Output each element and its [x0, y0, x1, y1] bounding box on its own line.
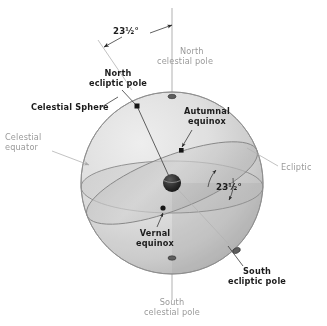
obliquity-inner-label: 23½°	[216, 182, 242, 192]
north-celestial-pole-label-line1: North	[180, 46, 204, 56]
south-ecliptic-pole-label-line2: ecliptic pole	[228, 276, 286, 286]
autumnal-equinox-label-line1: Autumnal	[184, 106, 230, 116]
vernal-equinox-label-line1: Vernal	[140, 228, 171, 238]
celestial-equator-label-line2: equator	[5, 142, 39, 152]
earth-sphere	[163, 174, 181, 192]
north-celestial-pole-label-group: North celestial pole	[157, 46, 213, 66]
celestial-sphere-diagram: 23½° 23½° North celestial pole North ecl…	[0, 0, 327, 326]
celestial-sphere-label: Celestial Sphere	[31, 102, 109, 112]
sphere-lower-right-shade	[172, 183, 263, 274]
south-celestial-pole-marker	[168, 256, 176, 260]
north-ecliptic-pole-marker	[135, 104, 140, 109]
south-celestial-pole-label-line2: celestial pole	[144, 307, 200, 317]
north-ecliptic-pole-label-line2: ecliptic pole	[89, 78, 147, 88]
vernal-equinox-marker	[160, 205, 165, 210]
north-ecliptic-pole-leader	[122, 90, 135, 104]
obliquity-arrow-right	[150, 25, 172, 33]
vernal-equinox-label-line2: equinox	[136, 238, 174, 248]
autumnal-equinox-label-line2: equinox	[188, 116, 226, 126]
celestial-sphere-label-group: Celestial Sphere	[31, 97, 118, 112]
obliquity-arrow-left	[104, 37, 122, 47]
south-celestial-pole-label-group: South celestial pole	[144, 297, 200, 317]
ecliptic-label: Ecliptic	[281, 162, 312, 172]
obliquity-top-label: 23½°	[113, 26, 139, 36]
celestial-equator-label-line1: Celestial	[5, 132, 41, 142]
autumnal-equinox-marker	[179, 148, 184, 153]
celestial-equator-leader	[52, 151, 89, 165]
north-celestial-pole-label-line2: celestial pole	[157, 56, 213, 66]
south-celestial-pole-label-line1: South	[160, 297, 185, 307]
south-ecliptic-pole-label-line1: South	[243, 266, 271, 276]
diagram-canvas: 23½° 23½° North celestial pole North ecl…	[0, 0, 327, 326]
north-ecliptic-pole-label-line1: North	[104, 68, 131, 78]
north-celestial-pole-marker	[168, 94, 176, 98]
celestial-equator-label-group: Celestial equator	[5, 132, 89, 165]
